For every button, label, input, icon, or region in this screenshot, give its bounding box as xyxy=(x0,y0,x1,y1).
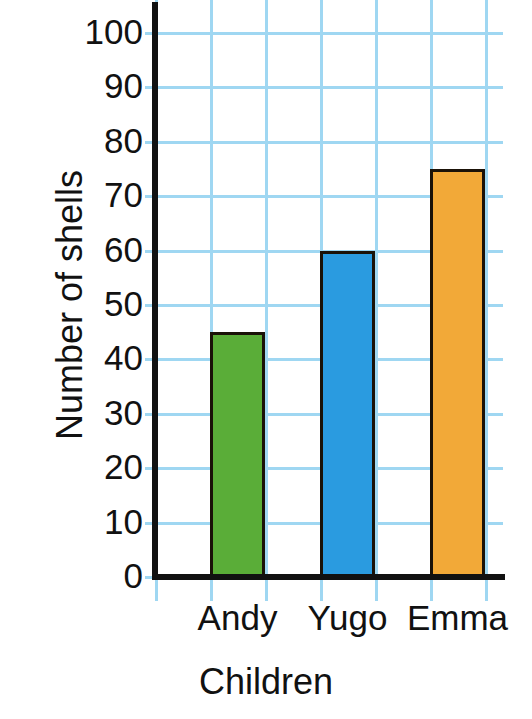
x-axis-line xyxy=(152,574,505,580)
x-axis-tick-label: Yugo xyxy=(293,598,403,638)
y-axis-tick-label: 40 xyxy=(104,340,143,375)
bars xyxy=(155,6,503,577)
x-axis-tick-label: Andy xyxy=(183,598,293,638)
y-axis-tick-label: 90 xyxy=(104,68,143,103)
x-axis-tick-labels: AndyYugoEmma xyxy=(155,598,503,642)
y-axis-tick-label: 60 xyxy=(104,232,143,267)
y-axis-line xyxy=(152,2,158,580)
bar-emma xyxy=(430,169,485,577)
plot-area xyxy=(155,6,503,577)
bar-yugo xyxy=(320,251,375,577)
bar-chart: 0102030405060708090100 AndyYugoEmma Numb… xyxy=(0,0,532,719)
y-axis-tick-label: 30 xyxy=(104,395,143,430)
y-axis-tick-label: 50 xyxy=(104,286,143,321)
y-axis-tick-label: 10 xyxy=(104,504,143,539)
y-axis-tick-label: 100 xyxy=(85,14,143,49)
y-axis-tick-label: 20 xyxy=(104,449,143,484)
bar-andy xyxy=(210,332,265,577)
x-axis-tick-label: Emma xyxy=(403,598,513,638)
y-axis-tick-label: 0 xyxy=(124,558,143,593)
y-axis-tick-label: 80 xyxy=(104,123,143,158)
y-axis-title: Number of shells xyxy=(50,115,90,495)
y-axis-tick-label: 70 xyxy=(104,177,143,212)
x-axis-title: Children xyxy=(0,662,532,702)
